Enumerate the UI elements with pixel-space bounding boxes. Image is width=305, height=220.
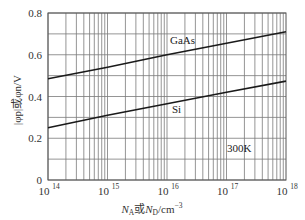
x-tick-exponent: 14	[52, 182, 60, 191]
y-tick-label: 0.6	[28, 49, 42, 61]
x-tick-exponent: 18	[290, 182, 298, 191]
x-axis-title: NA或ND/cm−3	[120, 201, 182, 217]
x-tick-label: 10	[158, 185, 170, 197]
x-title-or: 或	[134, 203, 145, 215]
y-tick-label: 0.2	[28, 132, 42, 144]
chart: 00.20.40.60.8 10141015101610171018 GaAs …	[0, 0, 305, 220]
x-tick-exponent: 16	[171, 182, 179, 191]
x-tick-exponent: 17	[231, 182, 239, 191]
gaas-label: GaAs	[170, 34, 195, 46]
y-tick-label: 0.8	[28, 7, 42, 19]
x-tick-label: 10	[217, 185, 229, 197]
x-tick-label: 10	[277, 185, 289, 197]
si-label: Si	[172, 103, 181, 115]
x-title-unit: /cm	[158, 203, 175, 215]
y-tick-labels: 00.20.40.60.8	[28, 7, 42, 186]
x-tick-labels: 10141015101610171018	[39, 182, 299, 197]
x-title-exp: −3	[175, 201, 183, 210]
y-tick-label: 0.4	[28, 91, 42, 103]
temperature-label: 300K	[227, 142, 252, 154]
x-tick-label: 10	[39, 185, 51, 197]
y-axis-title: |φp|或φn/V	[11, 75, 23, 125]
x-tick-label: 10	[98, 185, 110, 197]
x-tick-exponent: 15	[112, 182, 120, 191]
